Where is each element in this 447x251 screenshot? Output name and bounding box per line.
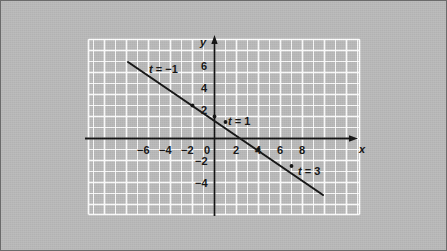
data-point-t-1 bbox=[224, 120, 228, 124]
x-axis-label: x bbox=[359, 144, 365, 155]
x-tick-label-4: 4 bbox=[255, 145, 261, 156]
x-tick-label--6: −6 bbox=[137, 145, 150, 156]
y-axis-label: y bbox=[200, 37, 206, 48]
coordinate-plot bbox=[1, 1, 447, 251]
annotation-t-neg1: t = −1 bbox=[149, 64, 178, 75]
data-point-t-0 bbox=[213, 115, 217, 119]
annotation-t-neg1-value: = −1 bbox=[153, 63, 178, 75]
x-tick-label-8: 8 bbox=[299, 145, 305, 156]
figure-panel: −6 −4 −2 0 2 4 6 8 6 4 2 −2 −4 x y t = −… bbox=[0, 0, 447, 251]
y-tick-label--2: −2 bbox=[195, 156, 208, 167]
y-tick-label-4: 4 bbox=[201, 83, 207, 94]
annotation-t-1: t = 1 bbox=[228, 116, 250, 127]
x-tick-label-6: 6 bbox=[277, 145, 283, 156]
data-point-t-neg1 bbox=[191, 104, 195, 108]
y-tick-label-2: 2 bbox=[201, 105, 207, 116]
annotation-t-1-value: = 1 bbox=[232, 115, 251, 127]
data-point-t-3 bbox=[290, 164, 294, 168]
x-tick-label--2: −2 bbox=[181, 145, 194, 156]
annotation-t-3: t = 3 bbox=[298, 166, 320, 177]
y-tick-label-6: 6 bbox=[201, 61, 207, 72]
x-axis-arrowhead bbox=[349, 135, 358, 141]
y-tick-label--4: −4 bbox=[195, 178, 208, 189]
x-tick-label-2: 2 bbox=[233, 145, 239, 156]
annotation-t-3-value: = 3 bbox=[302, 165, 321, 177]
x-tick-label--4: −4 bbox=[159, 145, 172, 156]
